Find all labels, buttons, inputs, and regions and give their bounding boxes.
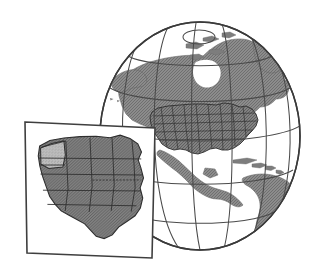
globe-and-inset-illustration	[0, 0, 323, 274]
western-us-inset-map[interactable]	[25, 122, 155, 258]
figure-root: Globe showing North America with western…	[0, 0, 323, 274]
